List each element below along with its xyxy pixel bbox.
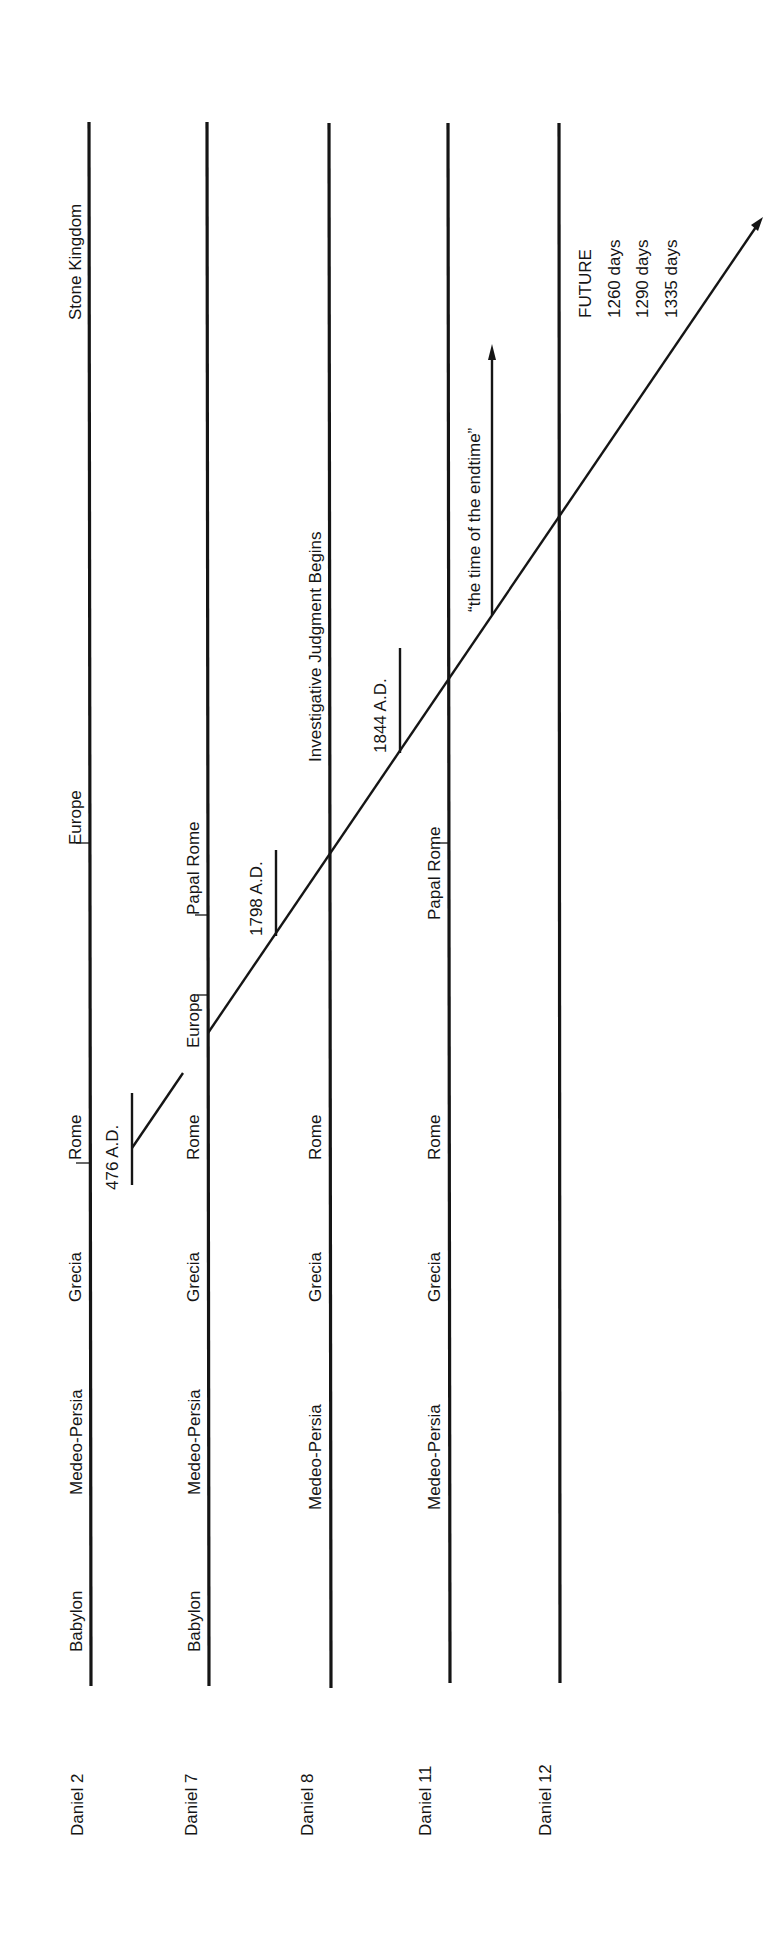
label-d7-europe: Europe [184,993,204,1048]
label-d11-rome: Rome [425,1115,445,1160]
label-d2-rome: Rome [66,1115,86,1160]
label-d2-stone-kingdom: Stone Kingdom [66,204,86,320]
label-d7-grecia: Grecia [184,1252,204,1302]
label-d2-babylon: Babylon [67,1591,87,1652]
days-1290: 1290 days [629,240,658,318]
label-d11-grecia: Grecia [425,1252,445,1302]
days-1260: 1260 days [601,240,630,318]
endtime-arrow-icon [488,344,496,360]
label-d7-medeo-persia: Medeo-Persia [185,1389,205,1495]
timeline-daniel-7 [207,122,209,1686]
chapter-label-daniel-7: Daniel 7 [182,1774,202,1836]
marker-1844-label: 1844 A.D. [371,678,391,753]
timeline-daniel-2 [89,122,91,1686]
label-d2-grecia: Grecia [66,1252,86,1302]
chapter-label-daniel-12: Daniel 12 [536,1764,556,1836]
chapter-label-daniel-8: Daniel 8 [298,1774,318,1836]
timeline-daniel-8 [329,123,331,1688]
diagonal-timeline [208,224,758,1033]
marker-endtime-label: “the time of the endtime” [465,428,485,612]
future-block: FUTURE 1260 days 1290 days 1335 days [572,240,686,318]
label-d8-grecia: Grecia [306,1252,326,1302]
label-d11-medeo-persia: Medeo-Persia [425,1404,445,1510]
arrowhead-icon [751,217,763,231]
timeline-daniel-12 [559,123,560,1683]
timeline-daniel-11 [448,123,450,1683]
label-d7-babylon: Babylon [185,1591,205,1652]
label-d8-medeo-persia: Medeo-Persia [306,1404,326,1510]
label-d2-europe: Europe [66,790,86,845]
label-d7-papal-rome: Papal Rome [184,821,204,915]
label-d7-rome: Rome [184,1115,204,1160]
days-1335: 1335 days [658,240,687,318]
marker-476-label: 476 A.D. [103,1125,123,1190]
chapter-label-daniel-2: Daniel 2 [68,1774,88,1836]
label-d8-rome: Rome [306,1115,326,1160]
label-d8-investigative-judgment: Investigative Judgment Begins [306,531,326,762]
chapter-label-daniel-11: Daniel 11 [416,1765,436,1836]
label-d2-medeo-persia: Medeo-Persia [67,1389,87,1495]
future-label: FUTURE [572,240,601,318]
prophecy-timeline-diagram: Stone Kingdom Europe Rome Grecia Medeo-P… [0,0,781,1952]
diagonal-segment-476 [132,1073,183,1148]
marker-1798-label: 1798 A.D. [247,861,267,936]
label-d11-papal-rome: Papal Rome [425,826,445,920]
